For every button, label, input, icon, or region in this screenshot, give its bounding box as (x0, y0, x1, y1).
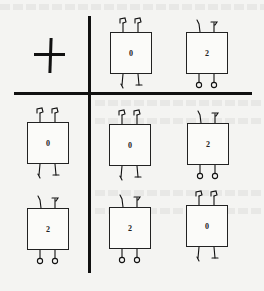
foot-shape (196, 82, 201, 87)
leg-stroke (214, 247, 215, 258)
table-cell-creature: 0 (109, 124, 151, 166)
leg-stroke (137, 166, 138, 177)
leg-stroke (39, 164, 40, 175)
foot-shape (212, 173, 217, 178)
header-column-divider (88, 16, 91, 273)
header-row-divider (14, 92, 252, 95)
foot-shape (211, 82, 216, 87)
fist-shape (134, 110, 140, 115)
hand-shape (52, 198, 58, 208)
foot-shape (37, 258, 42, 263)
hand-shape (198, 111, 201, 123)
hand-shape (212, 113, 218, 123)
show-through-text (95, 100, 264, 106)
fist-shape (135, 18, 141, 23)
foot-shape (197, 173, 202, 178)
column-header-creature: 2 (186, 32, 228, 74)
leg-stroke (122, 74, 123, 85)
creature-label: 0 (186, 205, 228, 247)
hand-shape (197, 20, 200, 32)
foot-shape (119, 257, 124, 262)
row-header-creature: 2 (27, 208, 69, 250)
fist-shape (52, 108, 58, 113)
creature-label: 2 (109, 207, 151, 249)
fist-shape (119, 110, 125, 115)
creature-label: 0 (27, 122, 69, 164)
creature-label: 2 (27, 208, 69, 250)
leg-stroke (198, 247, 199, 258)
leg-stroke (55, 164, 56, 175)
creature-label: 0 (109, 124, 151, 166)
hand-shape (211, 22, 217, 32)
hand-shape (38, 196, 41, 208)
fist-shape (37, 108, 43, 113)
leg-stroke (121, 166, 122, 177)
fist-shape (211, 191, 217, 196)
table-cell-creature: 2 (109, 207, 151, 249)
hand-shape (120, 195, 123, 207)
fist-shape (196, 191, 202, 196)
column-header-creature: 0 (110, 32, 152, 74)
operation-table-figure: 0 2 0 2 0 2 2 0 (0, 0, 264, 291)
foot-shape (52, 258, 57, 263)
plus-horizontal-stroke (34, 53, 65, 56)
creature-label: 0 (110, 32, 152, 74)
table-cell-creature: 0 (186, 205, 228, 247)
table-cell-creature: 2 (187, 123, 229, 165)
show-through-text (0, 4, 264, 10)
fist-shape (120, 18, 126, 23)
hand-shape (134, 197, 140, 207)
creature-label: 2 (187, 123, 229, 165)
foot-shape (134, 257, 139, 262)
leg-stroke (138, 74, 139, 85)
creature-label: 2 (186, 32, 228, 74)
row-header-creature: 0 (27, 122, 69, 164)
